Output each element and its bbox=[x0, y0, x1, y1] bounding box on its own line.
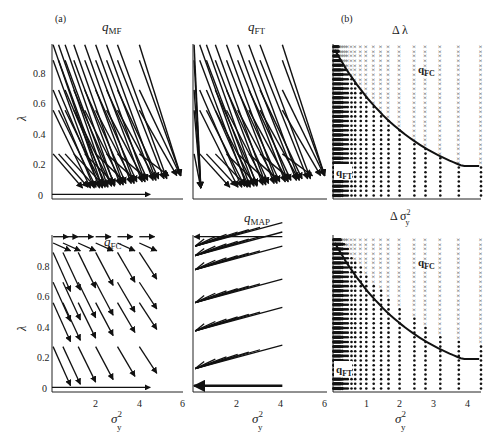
svg-text:0.4: 0.4 bbox=[37, 322, 50, 333]
title-q-map: qMAP bbox=[244, 210, 270, 227]
svg-text:0: 0 bbox=[42, 383, 47, 394]
svg-text:6: 6 bbox=[322, 398, 327, 409]
svg-text:2: 2 bbox=[397, 398, 402, 409]
svg-text:3: 3 bbox=[431, 398, 436, 409]
quiver-q-map bbox=[194, 223, 282, 386]
svg-text:×: × bbox=[386, 236, 390, 244]
svg-text:×: × bbox=[423, 43, 427, 51]
svg-text:4: 4 bbox=[278, 398, 283, 409]
svg-text:×: × bbox=[423, 236, 427, 244]
svg-text:×: × bbox=[479, 236, 483, 244]
region-label-ft-bottom: qFT bbox=[334, 361, 353, 378]
svg-text:×: × bbox=[397, 43, 401, 51]
title-delta-lambda: Δ λ bbox=[392, 23, 408, 37]
x-ticks-q-fc: 2 4 6 bbox=[93, 398, 185, 409]
title-q-ft: qFT bbox=[248, 19, 266, 36]
svg-text:×: × bbox=[412, 236, 416, 244]
panel-a-label: (a) bbox=[55, 13, 66, 25]
svg-text:×: × bbox=[379, 236, 383, 244]
svg-text:0: 0 bbox=[38, 190, 43, 201]
svg-text:×: × bbox=[479, 43, 483, 51]
svg-text:×: × bbox=[397, 236, 401, 244]
quiver-q-mf bbox=[52, 45, 181, 195]
svg-text:×: × bbox=[379, 43, 383, 51]
svg-text:4: 4 bbox=[137, 398, 142, 409]
svg-text:×: × bbox=[438, 43, 442, 51]
title-delta-sigma: Δ σ2y bbox=[390, 208, 411, 227]
svg-text:0.4: 0.4 bbox=[33, 129, 46, 140]
svg-text:1: 1 bbox=[364, 398, 369, 409]
svg-text:0.2: 0.2 bbox=[33, 159, 46, 170]
svg-text:×: × bbox=[386, 43, 390, 51]
svg-text:0.8: 0.8 bbox=[33, 68, 46, 79]
figure-canvas: (a) (b) qMF qFT Δ λ qFC qMAP Δ σ2y λ λ 0… bbox=[0, 0, 485, 439]
xlabel-q-fc: σ2y bbox=[111, 409, 122, 432]
svg-text:×: × bbox=[353, 236, 357, 244]
xlabel-delta-sigma: σ2y bbox=[395, 409, 406, 432]
svg-text:×: × bbox=[358, 236, 362, 244]
svg-text:0.8: 0.8 bbox=[37, 261, 50, 272]
svg-text:0.2: 0.2 bbox=[37, 352, 50, 363]
y-ticks-top: 0 0.2 0.4 0.6 0.8 bbox=[33, 68, 46, 201]
svg-text:0.6: 0.6 bbox=[37, 291, 50, 302]
scatter-delta-sigma: ××××××××××××××××××××××××××××××××××××××××… bbox=[332, 236, 482, 390]
scatter-delta-lambda: ××××××××××××××××××××××××××××××××××××××××… bbox=[332, 43, 482, 197]
title-q-mf: qMF bbox=[102, 19, 122, 36]
ylabel-top: λ bbox=[15, 116, 29, 122]
svg-text:×: × bbox=[456, 236, 460, 244]
y-ticks-bottom: 0 0.2 0.4 0.6 0.8 bbox=[37, 261, 50, 394]
svg-text:2: 2 bbox=[234, 398, 239, 409]
svg-text:×: × bbox=[364, 43, 368, 51]
quiver-q-fc bbox=[52, 237, 157, 388]
xlabel-q-map: σ2y bbox=[252, 409, 263, 432]
svg-text:4: 4 bbox=[465, 398, 470, 409]
svg-text:×: × bbox=[364, 236, 368, 244]
svg-text:0.6: 0.6 bbox=[33, 98, 46, 109]
x-ticks-delta-sigma: 1 2 3 4 bbox=[364, 398, 470, 409]
panel-b-label: (b) bbox=[341, 13, 353, 25]
svg-text:×: × bbox=[438, 236, 442, 244]
svg-text:×: × bbox=[456, 43, 460, 51]
svg-text:6: 6 bbox=[180, 398, 185, 409]
svg-text:×: × bbox=[358, 43, 362, 51]
svg-text:×: × bbox=[353, 43, 357, 51]
svg-text:×: × bbox=[371, 43, 375, 51]
svg-text:×: × bbox=[412, 43, 416, 51]
quiver-q-ft bbox=[194, 45, 325, 188]
x-ticks-q-map: 2 4 6 bbox=[234, 398, 327, 409]
ylabel-bottom: λ bbox=[15, 326, 29, 332]
svg-text:×: × bbox=[371, 236, 375, 244]
region-label-ft-top: qFT bbox=[334, 164, 353, 181]
svg-text:2: 2 bbox=[93, 398, 98, 409]
